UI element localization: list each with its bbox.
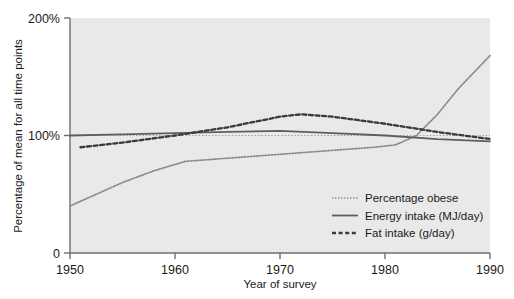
legend-label: Percentage obese xyxy=(365,192,458,204)
y-axis-tick-labels: 0100%200% xyxy=(28,12,60,261)
legend-label: Fat intake (g/day) xyxy=(365,227,455,239)
legend-label: Energy intake (MJ/day) xyxy=(365,210,483,222)
chart-figure: 0100%200% 19501960197019801990 Year of s… xyxy=(0,0,514,299)
y-tick-label: 0 xyxy=(53,247,60,261)
x-tick-label: 1960 xyxy=(161,263,189,277)
x-axis-tick-labels: 19501960197019801990 xyxy=(56,263,504,277)
x-tick-label: 1990 xyxy=(476,263,504,277)
x-axis-ticks xyxy=(70,253,490,259)
y-tick-label: 200% xyxy=(28,12,60,26)
y-axis-title: Percentage of mean for all time points xyxy=(12,39,24,233)
x-tick-label: 1970 xyxy=(266,263,294,277)
y-tick-label: 100% xyxy=(28,129,60,143)
x-tick-label: 1950 xyxy=(56,263,84,277)
x-tick-label: 1980 xyxy=(371,263,399,277)
x-axis-title: Year of survey xyxy=(243,278,316,290)
line-chart-svg: 0100%200% 19501960197019801990 Year of s… xyxy=(0,0,514,299)
